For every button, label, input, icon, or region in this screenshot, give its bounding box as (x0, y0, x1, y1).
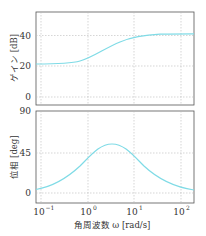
gain-panel: 40 20 0 ゲイン [dB] (9, 12, 194, 105)
xtick-base-3: 10 (173, 207, 185, 217)
gain-ytick-20: 20 (20, 61, 32, 71)
xtick-exp-0: −1 (46, 204, 55, 211)
xtick-base-2: 10 (126, 207, 138, 217)
phase-ytick-45: 45 (20, 148, 32, 158)
phase-ytick-0: 0 (25, 188, 31, 198)
gain-ytick-40: 40 (20, 31, 32, 41)
xtick-base-0: 10 (33, 207, 45, 217)
xtick-base-1: 10 (80, 207, 92, 217)
x-ticks: 10 −1 10 0 10 1 10 2 (33, 204, 190, 217)
xtick-exp-1: 0 (93, 204, 97, 211)
phase-ytick-90: 90 (20, 106, 32, 116)
gain-ytick-0: 0 (25, 92, 31, 102)
gain-ylabel: ゲイン [dB] (9, 34, 19, 82)
xtick-exp-3: 2 (186, 204, 190, 211)
phase-ylabel: 位相 [deg] (9, 135, 19, 178)
phase-panel: 90 45 0 位相 [deg] (9, 106, 194, 203)
bode-plot: 40 20 0 ゲイン [dB] 90 45 0 位相 [deg] 10 −1 … (0, 0, 206, 236)
xtick-exp-2: 1 (139, 204, 143, 211)
x-axis-label: 角周波数 ω [rad/s] (74, 220, 151, 230)
